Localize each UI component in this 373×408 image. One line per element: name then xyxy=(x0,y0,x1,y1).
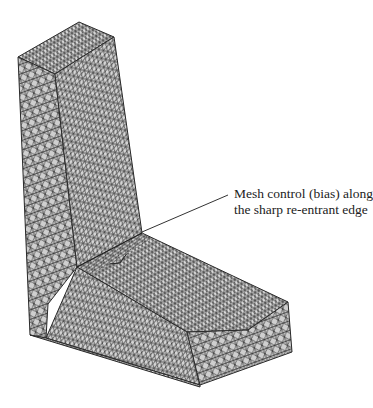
annotation-leader-line xyxy=(142,195,228,232)
annotation-line-1: Mesh control (bias) along xyxy=(234,186,373,202)
mesh-control-annotation: Mesh control (bias) along the sharp re-e… xyxy=(234,186,373,218)
annotation-line-2: the sharp re-entrant edge xyxy=(234,202,373,218)
